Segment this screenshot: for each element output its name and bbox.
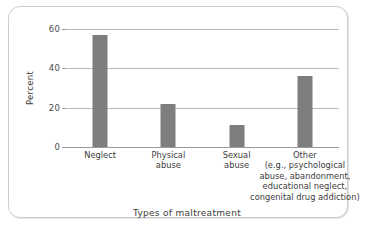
- x-axis-title: Types of maltreatment: [17, 208, 357, 218]
- x-category-labels: NeglectPhysicalabuseSexualabuseOther(e.g…: [66, 150, 339, 208]
- x-category-label-line: Other: [250, 150, 360, 160]
- y-tick-mark-60: [62, 29, 66, 30]
- x-category-label-line: abuse: [223, 160, 251, 170]
- y-tick-label-60: 60: [49, 24, 60, 34]
- x-category-label: Physicalabuse: [151, 150, 185, 171]
- bar: [297, 76, 312, 147]
- chart-frame: Percent 0204060 NeglectPhysicalabuseSexu…: [8, 6, 348, 218]
- bar: [161, 104, 176, 147]
- y-tick-label-40: 40: [49, 63, 60, 73]
- x-category-label-line: abuse: [151, 160, 185, 170]
- y-tick-label-20: 20: [49, 103, 60, 113]
- y-tick-label-0: 0: [54, 142, 60, 152]
- y-tick-mark-20: [62, 108, 66, 109]
- x-category-label-line: congenital drug addiction): [250, 192, 360, 202]
- y-axis-title: Percent: [25, 71, 35, 105]
- bar: [229, 125, 244, 147]
- bar: [93, 35, 108, 147]
- x-category-label: Other(e.g., psychologicalabuse, abandonm…: [250, 150, 360, 202]
- plot-area: 0204060: [66, 29, 339, 147]
- x-category-label-line: (e.g., psychological: [250, 160, 360, 170]
- y-tick-mark-40: [62, 68, 66, 69]
- y-tick-mark-0: [62, 147, 66, 148]
- x-category-label-line: Sexual: [223, 150, 251, 160]
- x-category-label-line: abuse, abandonment,: [250, 171, 360, 181]
- gridline-0: 0: [66, 147, 339, 148]
- gridline-60: 60: [66, 29, 339, 30]
- x-category-label: Neglect: [84, 150, 116, 160]
- x-category-label-line: Physical: [151, 150, 185, 160]
- x-category-label-line: educational neglect,: [250, 181, 360, 191]
- x-category-label-line: Neglect: [84, 150, 116, 160]
- x-category-label: Sexualabuse: [223, 150, 251, 171]
